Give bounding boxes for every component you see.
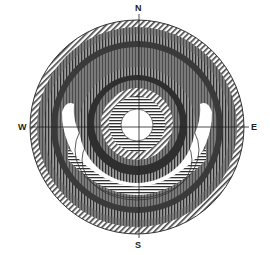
compass-north-label: N (135, 3, 142, 13)
center-hole (121, 109, 153, 141)
compass-west-label: W (18, 122, 27, 132)
compass-south-label: S (135, 240, 141, 250)
concentric-ring-diagram (0, 0, 270, 255)
compass-east-label: E (251, 122, 257, 132)
